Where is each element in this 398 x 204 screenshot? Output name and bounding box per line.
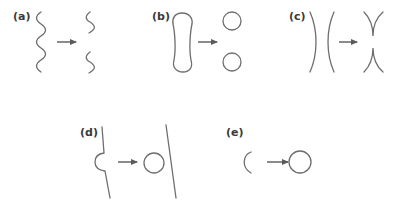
short-wavy-top: [86, 12, 94, 33]
panel-b-label: (b): [152, 10, 170, 23]
panel-b: (b): [152, 10, 241, 72]
detached-circle: [144, 153, 164, 173]
capsule-shape: [173, 13, 192, 72]
long-wavy-line: [37, 12, 46, 72]
arc-right-facing: [310, 12, 316, 72]
cusp-bottom: [364, 48, 383, 72]
circle-top: [223, 12, 241, 30]
straight-line: [166, 125, 176, 198]
cusp-top: [364, 12, 383, 36]
panel-c-label: (c): [289, 10, 306, 23]
panel-d: (d): [80, 125, 176, 198]
circle-bottom: [223, 53, 241, 71]
closed-circle: [289, 151, 311, 173]
panel-e-label: (e): [226, 126, 244, 139]
panel-e: (e): [226, 126, 311, 173]
panel-a-label: (a): [13, 10, 30, 23]
arc-left-facing: [328, 12, 334, 72]
panel-a: (a): [13, 10, 94, 73]
open-arc: [244, 152, 251, 173]
short-wavy-bottom: [86, 52, 94, 73]
panel-d-label: (d): [80, 126, 98, 139]
diagram-canvas: (a) (b) (c) (d) (e): [0, 0, 398, 204]
panel-c: (c): [289, 10, 383, 72]
